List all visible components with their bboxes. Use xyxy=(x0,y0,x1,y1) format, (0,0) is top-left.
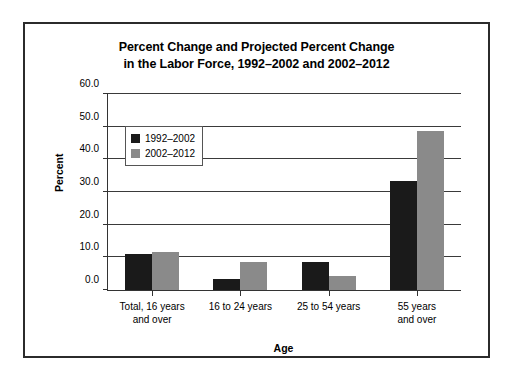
bar-group xyxy=(285,94,373,290)
x-axis-tick-label-line: 55 years xyxy=(369,300,465,313)
legend-label: 2002–2012 xyxy=(145,148,195,159)
x-axis-title: Age xyxy=(107,342,460,354)
chart-title-line-1: Percent Change and Projected Percent Cha… xyxy=(25,39,488,56)
chart-title: Percent Change and Projected Percent Cha… xyxy=(25,39,488,73)
x-axis-tick-label-line: and over xyxy=(104,313,200,326)
bar xyxy=(417,131,444,290)
bar xyxy=(125,254,152,290)
bar xyxy=(152,252,179,290)
chart-title-line-2: in the Labor Force, 1992–2002 and 2002–2… xyxy=(25,56,488,73)
y-axis-tick-label: 20.0 xyxy=(55,208,99,219)
legend-item: 2002–2012 xyxy=(131,146,195,161)
x-axis-tick-label-line: Total, 16 years xyxy=(104,300,200,313)
y-axis-tick-label: 60.0 xyxy=(55,78,99,89)
plot-area: 0.010.020.030.040.050.060.0 Total, 16 ye… xyxy=(107,94,461,291)
legend-swatch xyxy=(131,149,140,158)
x-axis-tick-label: Total, 16 yearsand over xyxy=(104,300,200,326)
x-axis-tick-label: 55 yearsand over xyxy=(369,300,465,326)
x-axis-tick-mark xyxy=(417,290,418,296)
x-axis-tick-label: 16 to 24 years xyxy=(192,300,288,313)
y-axis-tick-label: 40.0 xyxy=(55,143,99,154)
x-axis-tick-label-line: 16 to 24 years xyxy=(192,300,288,313)
x-axis-tick-label: 25 to 54 years xyxy=(281,300,377,313)
legend-label: 1992–2002 xyxy=(145,133,195,144)
bar xyxy=(390,181,417,290)
x-axis-tick-mark xyxy=(152,290,153,296)
legend-item: 1992–2002 xyxy=(131,131,195,146)
bar xyxy=(213,279,240,290)
bar-group xyxy=(196,94,284,290)
y-axis-tick-label: 50.0 xyxy=(55,110,99,121)
bar-series-container xyxy=(108,94,461,290)
x-axis-tick-mark xyxy=(329,290,330,296)
bar xyxy=(240,262,267,290)
bar xyxy=(302,262,329,290)
bar xyxy=(329,276,356,290)
bar-group xyxy=(108,94,196,290)
chart-legend: 1992–20022002–2012 xyxy=(125,126,203,166)
x-axis-tick-mark xyxy=(240,290,241,296)
x-axis-tick-label-line: 25 to 54 years xyxy=(281,300,377,313)
y-axis-tick-label: 0.0 xyxy=(55,274,99,285)
legend-swatch xyxy=(131,134,140,143)
y-axis-tick-label: 10.0 xyxy=(55,241,99,252)
bar-group xyxy=(373,94,461,290)
y-axis-tick-label: 30.0 xyxy=(55,176,99,187)
chart-figure: Percent Change and Projected Percent Cha… xyxy=(23,22,490,358)
x-axis-tick-label-line: and over xyxy=(369,313,465,326)
